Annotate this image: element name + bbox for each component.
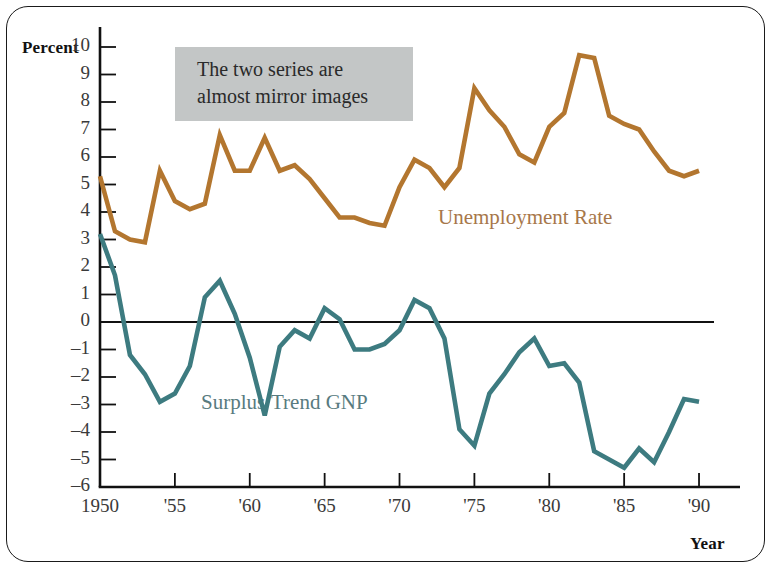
y-axis-tick-label: –2 [48, 364, 90, 386]
x-axis-tick-label: 1950 [68, 495, 132, 517]
x-axis-tick-label: '60 [218, 495, 282, 517]
x-axis-tick-label: '75 [442, 495, 506, 517]
y-axis-tick-label: 0 [48, 309, 90, 331]
y-axis-tick-label: 9 [48, 62, 90, 84]
y-axis-tick-label: 7 [48, 117, 90, 139]
series-line-surplus-trend-gnp [100, 234, 699, 468]
chart-plot [0, 0, 777, 574]
y-axis-tick-label: 8 [48, 89, 90, 111]
y-axis-tick-label: 2 [48, 254, 90, 276]
figure-container: Percent Year The two series are almost m… [0, 0, 777, 574]
y-axis-tick-label: 1 [48, 282, 90, 304]
x-axis-tick-label: '85 [592, 495, 656, 517]
x-axis-tick-label: '70 [368, 495, 432, 517]
y-axis-tick-label: 6 [48, 144, 90, 166]
y-axis-tick-label: 3 [48, 227, 90, 249]
y-axis-tick-label: –1 [48, 337, 90, 359]
x-axis-tick-label: '55 [143, 495, 207, 517]
y-axis-tick-label: –3 [48, 392, 90, 414]
series-line-unemployment-rate [100, 55, 699, 242]
y-axis-tick-label: 4 [48, 199, 90, 221]
y-axis-tick-label: –6 [48, 474, 90, 496]
x-axis-tick-label: '80 [517, 495, 581, 517]
x-axis-tick-label: '65 [293, 495, 357, 517]
y-axis-tick-label: –5 [48, 447, 90, 469]
x-axis-tick-label: '90 [667, 495, 731, 517]
y-axis-tick-label: –4 [48, 419, 90, 441]
y-axis-tick-label: 10 [48, 34, 90, 56]
y-axis-tick-label: 5 [48, 172, 90, 194]
